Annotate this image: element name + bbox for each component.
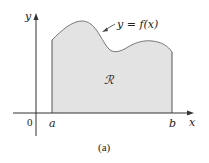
y-axis-label: y [24, 10, 32, 23]
a-label: a [49, 117, 56, 130]
region-r [52, 21, 172, 113]
region-label: ℛ [104, 73, 115, 87]
x-axis-arrow-icon [187, 111, 194, 116]
curve-label: y = f(x) [116, 18, 158, 31]
area-under-curve-diagram: y x 0 a b y = f(x) ℛ (a) [0, 0, 209, 163]
b-label: b [169, 117, 176, 130]
figure-caption: (a) [98, 141, 111, 154]
y-axis-arrow-icon [34, 13, 39, 20]
x-axis-label: x [189, 116, 196, 129]
label-pointer-arrow-icon [102, 28, 108, 33]
origin-label: 0 [27, 116, 33, 128]
